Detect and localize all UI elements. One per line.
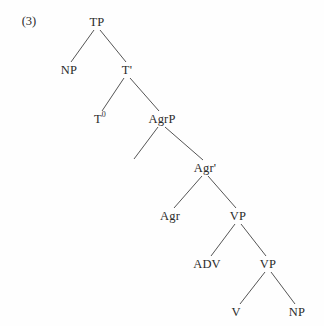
tree-node-vp1: VP <box>230 209 246 224</box>
tree-node-agr: Agr <box>160 209 180 224</box>
tree-branch-vp1-vp2 <box>241 224 266 256</box>
tree-branch-agrbar-vp1 <box>208 176 236 208</box>
tree-branch-agrp-spec <box>134 127 158 159</box>
tree-branch-tbar-t0 <box>102 78 124 111</box>
example-number-label: (3) <box>22 14 37 29</box>
tree-branch-vp2-np2 <box>271 272 295 304</box>
tree-node-adv: ADV <box>193 257 221 272</box>
tree-branch-lines <box>0 0 324 326</box>
tree-branch-tp-tbar <box>100 30 126 62</box>
tree-node-np2: NP <box>289 305 305 320</box>
tree-node-v: V <box>231 305 240 320</box>
tree-branch-agrbar-agr <box>174 176 202 208</box>
tree-node-t0: T0 <box>94 112 106 127</box>
tree-node-agrbar: Agr' <box>194 161 217 176</box>
tree-branch-vp1-adv <box>211 224 235 256</box>
tree-node-tbar: T' <box>122 63 132 78</box>
tree-branch-vp2-v <box>240 272 265 304</box>
tree-node-t0-superscript: 0 <box>102 110 106 119</box>
syntax-tree-figure: (3) TPNPT'T0AgrPAgr'AgrVPADVVPVNP <box>0 0 324 326</box>
tree-node-vp2: VP <box>260 257 276 272</box>
tree-branch-agrp-agrbar <box>165 127 203 160</box>
tree-node-agrp: AgrP <box>148 112 175 127</box>
tree-branch-tp-np1 <box>71 30 94 62</box>
tree-node-tp: TP <box>90 15 105 30</box>
tree-node-np1: NP <box>61 63 77 78</box>
tree-branch-tbar-agrp <box>130 78 159 111</box>
